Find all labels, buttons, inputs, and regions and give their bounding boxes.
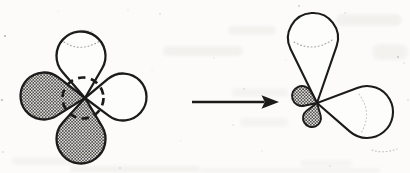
book-page-figure [0, 0, 410, 173]
orbital-hybridization-diagram [0, 0, 410, 173]
